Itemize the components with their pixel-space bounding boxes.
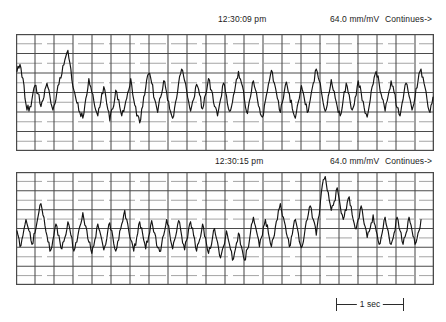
strip-1-timestamp: 12:30:09 pm (218, 14, 266, 24)
strip-1-gain-label: 64.0 mm/mV (330, 14, 379, 24)
strip-1-header: 12:30:09 pm 64.0 mm/mV Continues-> (0, 14, 446, 26)
strip-2-gain-label: 64.0 mm/mV (330, 156, 379, 166)
strip-2-header: 12:30:15 pm 64.0 mm/mV Continues-> (0, 156, 446, 168)
strip-2-timestamp: 12:30:15 pm (215, 156, 263, 166)
ecg-strip-page: 12:30:09 pm 64.0 mm/mV Continues-> 12:30… (0, 0, 446, 322)
scale-bar-right-tick (403, 298, 404, 311)
strip-2-continues-label: Continues-> (385, 156, 432, 166)
strip-1-continues-label: Continues-> (385, 14, 432, 24)
time-scale-bar: 1 sec (336, 298, 404, 312)
scale-bar-label: 1 sec (357, 298, 383, 310)
strip-1-panel (16, 34, 434, 151)
strip-1-trace (16, 34, 434, 151)
strip-2-panel (16, 172, 434, 285)
strip-2-trace (16, 172, 434, 285)
